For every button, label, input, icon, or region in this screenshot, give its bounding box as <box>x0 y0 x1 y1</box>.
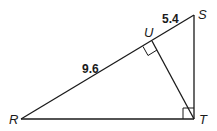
vertex-label-s: S <box>198 7 207 22</box>
measurement-us: 5.4 <box>162 12 179 26</box>
vertex-label-t: T <box>199 112 208 127</box>
vertex-label-r: R <box>9 112 18 127</box>
vertex-label-u: U <box>144 25 154 40</box>
measurement-ru: 9.6 <box>82 62 99 76</box>
right-angle-mark-u <box>143 47 157 56</box>
segment-rs <box>21 15 194 119</box>
segment-tu <box>152 41 194 119</box>
triangle-diagram: R S T U 9.6 5.4 <box>0 0 217 131</box>
